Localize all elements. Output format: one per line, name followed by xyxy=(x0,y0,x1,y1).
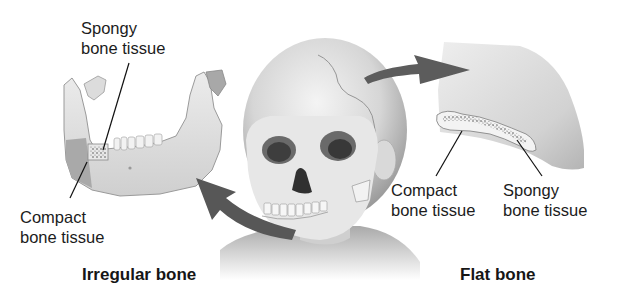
bone-types-diagram: Spongy bone tissue Compact bone tissue I… xyxy=(0,0,625,305)
irregular-bone-title: Irregular bone xyxy=(82,265,196,285)
label-line: Spongy xyxy=(503,180,587,200)
flat-compact-label: Compact bone tissue xyxy=(391,180,475,220)
label-line: Spongy xyxy=(81,18,165,38)
label-line: Compact xyxy=(20,207,104,227)
label-line: bone tissue xyxy=(503,200,587,220)
label-line: Compact xyxy=(391,180,475,200)
label-line: bone tissue xyxy=(20,227,104,247)
flat-bone-illustration xyxy=(437,42,584,170)
flat-spongy-label: Spongy bone tissue xyxy=(503,180,587,220)
leader-flat-compact xyxy=(436,131,462,176)
mandible-illustration xyxy=(64,70,226,196)
irregular-compact-label: Compact bone tissue xyxy=(20,207,104,247)
label-line: bone tissue xyxy=(391,200,475,220)
label-line: bone tissue xyxy=(81,38,165,58)
flat-bone-title: Flat bone xyxy=(460,265,536,285)
irregular-spongy-label: Spongy bone tissue xyxy=(81,18,165,58)
